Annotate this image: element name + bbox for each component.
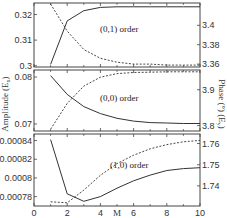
right-tick-label: 3.36	[202, 59, 220, 69]
panel-frame	[34, 3, 200, 67]
left-tick-label: 0.3	[19, 61, 32, 71]
svg-text:Amplitude (Ex): Amplitude (Ex)	[0, 76, 11, 131]
x-tick-label: 0	[31, 208, 36, 218]
multi-panel-line-chart: 0.30.310.323.363.383.4(0,1) order0.070.0…	[0, 0, 227, 218]
left-tick-label: 0.00082	[0, 154, 32, 164]
left-tick-label: 0.00078	[0, 192, 32, 202]
amplitude-line	[51, 7, 200, 65]
right-axis-title: Phase (°) (Ey)	[216, 79, 227, 129]
left-tick-label: 0.07	[14, 119, 32, 129]
order-annotation: (1,0) order	[110, 160, 148, 170]
left-tick-label: 0.08	[14, 72, 32, 82]
chart-panels: 0.30.310.323.363.383.4(0,1) order0.070.0…	[0, 3, 220, 218]
panel-top: 0.30.310.323.363.383.4(0,1) order	[14, 3, 219, 71]
amplitude-line	[51, 140, 200, 202]
left-tick-label: 0.00084	[0, 136, 32, 146]
left-axis-title: Amplitude (Ex)	[0, 76, 11, 131]
right-tick-label: 3.4	[202, 20, 215, 30]
svg-text:Phase (°) (Ey): Phase (°) (Ey)	[216, 79, 227, 129]
order-annotation: (0,1) order	[100, 24, 138, 34]
right-tick-label: 3.9	[202, 85, 215, 95]
right-tick-label: 1.76	[202, 139, 220, 149]
left-tick-label: 0.32	[14, 10, 32, 20]
x-tick-label: 10	[195, 208, 205, 218]
right-tick-label: 3.8	[202, 121, 215, 131]
panel-bottom: 0.000780.00080.000820.000841.741.751.760…	[0, 134, 220, 218]
left-tick-label: 0.0008	[4, 173, 32, 183]
panel-middle: 0.070.083.83.9(0,0) order	[14, 70, 214, 131]
right-tick-label: 3.38	[202, 40, 220, 50]
phase-line	[51, 140, 200, 202]
phase-line	[51, 4, 200, 65]
right-tick-label: 1.74	[202, 181, 220, 191]
x-tick-label: 4	[98, 208, 103, 218]
x-tick-label: 6	[131, 208, 136, 218]
x-axis-title: M	[113, 208, 121, 218]
x-tick-label: 2	[65, 208, 70, 218]
left-tick-label: 0.31	[14, 35, 32, 45]
order-annotation: (0,0) order	[100, 93, 138, 103]
right-tick-label: 1.75	[202, 160, 220, 170]
x-tick-label: 8	[164, 208, 169, 218]
